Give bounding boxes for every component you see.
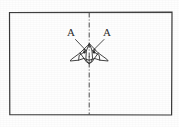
figure-canvas: A A [0, 0, 179, 127]
aircraft-marker-left [83, 51, 86, 54]
label-a-right: A [103, 26, 111, 38]
label-a-left: A [67, 26, 75, 38]
aircraft-marker-right [93, 51, 96, 54]
technical-drawing-svg: A A [0, 0, 179, 127]
